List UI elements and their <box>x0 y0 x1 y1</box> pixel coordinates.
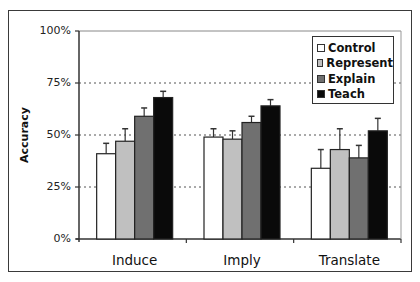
legend-swatch-teach <box>317 90 325 98</box>
x-category-label: Imply <box>192 252 292 268</box>
bar-translate-explain <box>349 158 368 239</box>
legend-item-control: Control <box>317 40 393 56</box>
bar-induce-control <box>97 154 116 239</box>
x-category-label: Translate <box>299 252 399 268</box>
bar-induce-explain <box>135 116 154 239</box>
bar-imply-represent <box>223 139 242 239</box>
bar-induce-teach <box>154 98 173 239</box>
y-tick-label: 25% <box>31 180 71 193</box>
legend-item-represent: Represent <box>317 56 393 72</box>
bar-imply-control <box>204 137 223 239</box>
y-tick-label: 75% <box>31 76 71 89</box>
y-tick-label: 0% <box>31 232 71 245</box>
legend: Control Represent Explain Teach <box>312 36 394 104</box>
legend-item-teach: Teach <box>317 87 393 103</box>
y-tick-label: 50% <box>31 128 71 141</box>
bar-translate-teach <box>368 131 387 239</box>
y-axis-label: Accuracy <box>18 107 31 163</box>
legend-swatch-represent <box>317 59 323 67</box>
bar-translate-control <box>311 168 330 239</box>
legend-item-explain: Explain <box>317 71 393 87</box>
x-category-label: Induce <box>85 252 185 268</box>
bar-imply-explain <box>242 123 261 239</box>
bar-translate-represent <box>330 150 349 239</box>
y-tick-label: 100% <box>31 24 71 37</box>
bar-imply-teach <box>261 106 280 239</box>
legend-swatch-control <box>317 44 325 52</box>
bar-induce-represent <box>116 141 135 239</box>
legend-swatch-explain <box>317 75 325 83</box>
